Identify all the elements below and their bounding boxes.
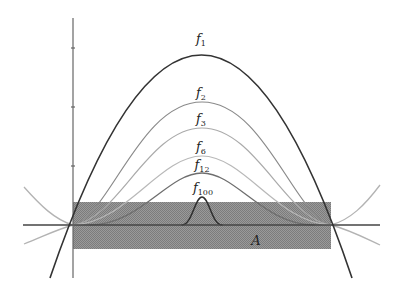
label-f12-sub: 12 (199, 165, 209, 174)
label-f3: f3 (196, 112, 206, 128)
label-f2-sub: 2 (201, 93, 206, 102)
label-f1: f1 (196, 32, 206, 48)
label-f100-sub: 100 (198, 188, 213, 197)
label-f12: f12 (195, 158, 210, 174)
label-f6-sub: 6 (201, 147, 206, 156)
label-f6: f6 (196, 140, 206, 156)
label-f3-sub: 3 (201, 119, 206, 128)
label-f2: f2 (196, 86, 206, 102)
label-set-a: A (251, 234, 260, 247)
label-f100: f100 (193, 181, 213, 197)
label-f1-sub: 1 (201, 39, 206, 48)
